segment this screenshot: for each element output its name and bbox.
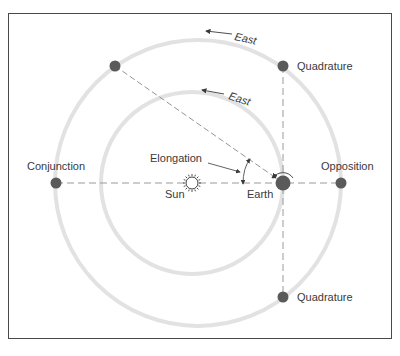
sun-label: Sun [165, 188, 185, 200]
conjunction-label: Conjunction [27, 160, 85, 172]
opposition-planet [336, 178, 347, 189]
earth-label: Earth [247, 188, 273, 200]
planetary-configurations-diagram: East East Quadrature Quadrature Conjunct… [0, 0, 400, 356]
sun-icon [183, 174, 201, 192]
quadrature-bottom-planet [278, 292, 289, 303]
quadrature-bottom-label: Quadrature [297, 291, 353, 303]
quadrature-top-label: Quadrature [297, 60, 353, 72]
elongation-label: Elongation [150, 152, 202, 164]
quadrature-top-planet [278, 61, 289, 72]
conjunction-planet [51, 178, 62, 189]
elongation-planet [110, 61, 121, 72]
opposition-label: Opposition [321, 160, 374, 172]
earth-dot [276, 176, 291, 191]
